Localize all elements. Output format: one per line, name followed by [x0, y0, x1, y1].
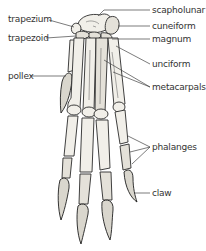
digit-2	[58, 116, 78, 220]
digit-5	[115, 110, 137, 202]
label-magnum: magnum	[152, 34, 191, 44]
digit-3	[77, 118, 94, 244]
label-claw: claw	[152, 188, 172, 198]
forepaw-skeleton-diagram: trapezium trapezoid pollex scapholunar c…	[0, 0, 206, 251]
digit-4	[96, 120, 113, 240]
label-phalanges: phalanges	[152, 142, 197, 152]
label-trapezoid: trapezoid	[8, 33, 49, 43]
label-trapezium: trapezium	[8, 14, 52, 24]
label-cuneiform: cuneiform	[152, 21, 196, 31]
label-pollex: pollex	[8, 71, 34, 81]
label-metacarpals: metacarpals	[152, 82, 206, 92]
label-unciform: unciform	[152, 59, 190, 69]
metacarpal-bones	[67, 38, 125, 119]
carpal-bones	[71, 14, 119, 41]
label-scapholunar: scapholunar	[152, 5, 205, 15]
